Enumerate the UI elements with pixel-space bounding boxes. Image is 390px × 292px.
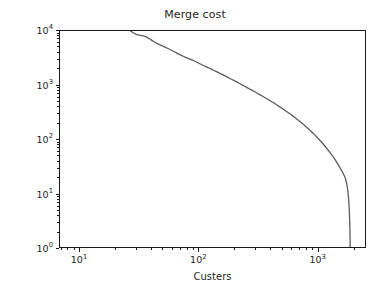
- y-tick-minor-mark: [57, 210, 59, 211]
- y-tick-mark: [56, 194, 60, 195]
- x-tick-minor-mark: [282, 248, 283, 250]
- x-tick-mark: [318, 248, 319, 252]
- y-tick-minor-mark: [57, 90, 59, 91]
- x-tick-mark: [198, 248, 199, 252]
- y-tick-minor-mark: [57, 87, 59, 88]
- y-tick-minor-mark: [57, 142, 59, 143]
- x-tick-minor-mark: [61, 248, 62, 250]
- x-tick-minor-mark: [234, 248, 235, 250]
- y-tick-minor-mark: [57, 155, 59, 156]
- y-tick-minor-mark: [57, 97, 59, 98]
- x-tick-minor-mark: [136, 248, 137, 250]
- y-tick-minor-mark: [57, 93, 59, 94]
- y-tick-mark: [56, 139, 60, 140]
- merge-cost-line-series: [60, 31, 365, 247]
- x-tick-minor-mark: [162, 248, 163, 250]
- x-tick-minor-mark: [187, 248, 188, 250]
- y-tick-label: 104: [37, 25, 53, 36]
- y-tick-minor-mark: [57, 52, 59, 53]
- series-polyline: [61, 31, 350, 247]
- x-tick-label: 102: [190, 254, 206, 265]
- y-tick-minor-mark: [57, 46, 59, 47]
- x-tick-minor-mark: [312, 248, 313, 250]
- x-tick-minor-mark: [255, 248, 256, 250]
- x-tick-minor-mark: [193, 248, 194, 250]
- x-tick-minor-mark: [299, 248, 300, 250]
- y-tick-mark: [56, 248, 60, 249]
- x-axis-label: Custers: [59, 271, 366, 282]
- y-tick-minor-mark: [57, 33, 59, 34]
- y-tick-minor-mark: [57, 35, 59, 36]
- x-tick-label: 103: [309, 254, 325, 265]
- y-tick-label: 101: [37, 188, 53, 199]
- y-tick-minor-mark: [57, 144, 59, 145]
- y-tick-label: 100: [37, 243, 53, 254]
- x-tick-minor-mark: [180, 248, 181, 250]
- y-tick-minor-mark: [57, 215, 59, 216]
- y-tick-minor-mark: [57, 206, 59, 207]
- plot-area: [59, 30, 366, 248]
- y-tick-minor-mark: [57, 38, 59, 39]
- y-tick-minor-mark: [57, 222, 59, 223]
- y-tick-mark: [56, 30, 60, 31]
- y-tick-minor-mark: [57, 106, 59, 107]
- x-tick-minor-mark: [172, 248, 173, 250]
- x-tick-minor-mark: [291, 248, 292, 250]
- x-tick-minor-mark: [74, 248, 75, 250]
- y-tick-minor-mark: [57, 68, 59, 69]
- y-tick-minor-mark: [57, 202, 59, 203]
- y-tick-minor-mark: [57, 151, 59, 152]
- y-tick-minor-mark: [57, 177, 59, 178]
- x-tick-minor-mark: [67, 248, 68, 250]
- x-tick-mark: [79, 248, 80, 252]
- y-tick-minor-mark: [57, 161, 59, 162]
- y-tick-minor-mark: [57, 147, 59, 148]
- x-tick-minor-mark: [306, 248, 307, 250]
- x-tick-minor-mark: [270, 248, 271, 250]
- x-tick-minor-mark: [151, 248, 152, 250]
- x-tick-minor-mark: [115, 248, 116, 250]
- y-tick-minor-mark: [57, 123, 59, 124]
- y-tick-minor-mark: [57, 199, 59, 200]
- y-tick-label: 103: [37, 79, 53, 90]
- x-tick-minor-mark: [354, 248, 355, 250]
- y-tick-minor-mark: [57, 113, 59, 114]
- y-tick-minor-mark: [57, 168, 59, 169]
- figure-canvas: Merge cost 101102103 100101102103104 Cus…: [0, 0, 390, 292]
- y-tick-minor-mark: [57, 232, 59, 233]
- y-tick-minor-mark: [57, 42, 59, 43]
- x-tick-label: 101: [71, 254, 87, 265]
- y-tick-mark: [56, 85, 60, 86]
- y-tick-minor-mark: [57, 101, 59, 102]
- page-title: Merge cost: [0, 8, 390, 21]
- y-tick-minor-mark: [57, 59, 59, 60]
- y-tick-label: 102: [37, 134, 53, 145]
- y-tick-minor-mark: [57, 196, 59, 197]
